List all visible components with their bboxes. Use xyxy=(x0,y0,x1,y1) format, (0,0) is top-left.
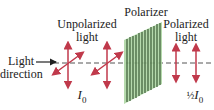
polarizer-filter xyxy=(124,22,162,104)
polarized-light-label: Polarized light xyxy=(158,18,214,44)
unpolarized-wave-1 xyxy=(55,45,81,85)
incident-intensity-label: I0 xyxy=(72,88,92,107)
light-direction-label: Light direction xyxy=(0,55,52,81)
transmitted-intensity-label: ½I0 xyxy=(180,88,210,107)
unpolarized-light-label: Unpolarized light xyxy=(56,18,118,44)
unpolarized-wave-2 xyxy=(94,45,120,85)
